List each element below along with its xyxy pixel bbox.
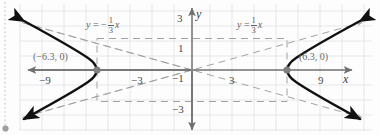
vertex-right-dot (283, 66, 290, 73)
vertex-left-label: (−6.3, 0) (33, 52, 68, 62)
x-tick-9: 9 (318, 75, 324, 86)
x-axis-label: x (343, 73, 348, 85)
asymptote-right-equals: = (244, 19, 250, 30)
asymptote-left-numerator: 1 (108, 16, 114, 25)
asymptote-left-variable: x (115, 19, 119, 30)
origin-dot (191, 69, 194, 72)
y-tick-neg-3: −3 (172, 104, 184, 115)
y-tick-3: 3 (177, 13, 183, 24)
graph-canvas (0, 0, 380, 135)
y-axis-label: y (196, 8, 201, 20)
vertex-right-label: (6.3, 0) (299, 52, 328, 62)
asymptote-left-equals: = (93, 19, 99, 30)
vertex-left-dot (93, 66, 100, 73)
asymptote-right-fraction: 13 (251, 16, 257, 34)
y-tick-1: 1 (178, 43, 184, 54)
grid-lines (20, 4, 372, 131)
asymptote-left-equation: y = −13x (86, 16, 119, 34)
x-tick-neg-9: −9 (39, 75, 51, 86)
asymptote-left-minus: − (101, 19, 107, 30)
asymptote-right-numerator: 1 (251, 16, 257, 25)
hyperbola-graph-figure: y x 3 1 −1 −3 −9 −3 3 9 (−6.3, 0) (6.3, … (0, 0, 380, 135)
x-tick-neg-3: −3 (131, 75, 143, 86)
asymptote-right-denominator: 3 (251, 25, 257, 35)
x-tick-3: 3 (229, 75, 235, 86)
y-tick-neg-1: −1 (172, 73, 184, 84)
asymptote-left-y: y (86, 19, 90, 30)
asymptote-right-y: y (237, 19, 241, 30)
asymptote-left-denominator: 3 (108, 25, 114, 35)
asymptote-left-fraction: 13 (108, 16, 114, 34)
page-edge-artifact (2, 2, 8, 132)
asymptote-right-variable: x (258, 19, 262, 30)
asymptote-right-equation: y =13x (237, 16, 262, 34)
